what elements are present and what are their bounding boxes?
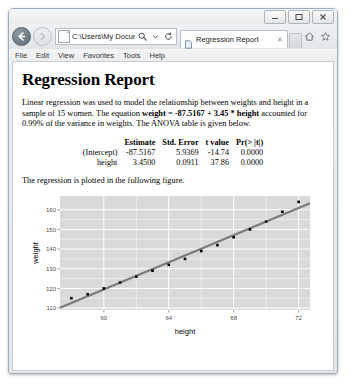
title-bar — [9, 9, 337, 24]
menu-item-favorites[interactable]: Favorites — [83, 51, 114, 60]
height-estimate: 3.4500 — [117, 158, 155, 168]
y-tick-label: 150 — [46, 227, 57, 233]
y-tick-label: 130 — [46, 266, 57, 272]
table-header-row: Estimate Std. Error t value Pr(> |t|) — [83, 138, 263, 148]
regression-scatter-chart: 11012013014015016060646872heightweight — [30, 190, 316, 338]
intercept-p-value: 0.0000 — [229, 148, 263, 158]
menu-item-file[interactable]: File — [15, 51, 27, 60]
figure-caption-paragraph: The regression is plotted in the followi… — [22, 176, 324, 187]
menu-item-tools[interactable]: Tools — [123, 51, 141, 60]
dropdown-arrow-icon[interactable] — [150, 30, 161, 43]
row-label-height: height — [83, 158, 118, 168]
x-tick-label: 72 — [295, 315, 302, 321]
data-point — [216, 244, 219, 247]
header-p-value: Pr(> |t|) — [229, 138, 263, 148]
favorites-star-icon[interactable] — [318, 29, 333, 44]
x-tick-label: 64 — [165, 315, 172, 321]
data-point — [70, 297, 73, 300]
toolbar-icons — [302, 29, 338, 44]
menu-item-edit[interactable]: Edit — [36, 51, 49, 60]
refresh-icon[interactable] — [163, 30, 174, 43]
intro-paragraph: Linear regression was used to model the … — [22, 98, 324, 130]
table-row: (Intercept) -87.5167 5.9369 -14.74 0.000… — [83, 148, 263, 158]
data-point — [103, 287, 106, 290]
data-point — [200, 250, 203, 253]
menu-item-help[interactable]: Help — [150, 51, 165, 60]
maximize-button[interactable] — [288, 10, 310, 24]
data-point — [167, 263, 170, 266]
height-p-value: 0.0000 — [229, 158, 263, 168]
minimize-button[interactable] — [264, 10, 286, 24]
close-button[interactable] — [312, 10, 334, 24]
data-point — [232, 236, 235, 239]
tab-page-icon — [184, 35, 193, 44]
address-input[interactable]: C:\Users\My Docume — [72, 32, 135, 41]
x-axis-label: height — [175, 327, 196, 336]
y-tick-label: 110 — [46, 305, 56, 311]
browser-window: C:\Users\My Docume — [8, 8, 338, 374]
address-bar[interactable]: C:\Users\My Docume — [55, 28, 177, 45]
data-point — [281, 210, 284, 213]
page-content: Regression Report Linear regression was … — [12, 61, 334, 371]
y-tick-label: 140 — [46, 246, 57, 252]
x-tick-label: 68 — [230, 315, 237, 321]
header-t-value: t value — [199, 138, 229, 148]
forward-arrow-icon — [37, 31, 48, 42]
back-button[interactable] — [12, 27, 31, 46]
page-icon — [58, 30, 70, 43]
table-row: height 3.4500 0.0911 37.86 0.0000 — [83, 158, 263, 168]
browser-tab[interactable]: Regression Report ✕ — [180, 30, 288, 48]
header-std-error: Std. Error — [155, 138, 198, 148]
tab-title: Regression Report — [196, 35, 273, 44]
data-point — [86, 293, 89, 296]
back-arrow-icon — [16, 31, 27, 42]
search-icon[interactable] — [137, 30, 148, 43]
regression-equation: weight = -87.5167 + 3.45 * height — [142, 109, 259, 118]
screen: C:\Users\My Docume — [0, 0, 349, 388]
tab-close-icon[interactable]: ✕ — [276, 36, 284, 44]
x-tick-label: 60 — [100, 315, 107, 321]
intercept-std-error: 5.9369 — [155, 148, 198, 158]
data-point — [184, 258, 187, 261]
page-title: Regression Report — [22, 70, 324, 90]
settings-gear-icon[interactable] — [334, 29, 338, 44]
regression-plot: 11012013014015016060646872heightweight — [30, 190, 316, 338]
height-std-error: 0.0911 — [155, 158, 198, 168]
home-icon[interactable] — [302, 29, 317, 44]
y-axis-label: weight — [31, 241, 40, 265]
window-controls — [264, 10, 334, 24]
y-tick-label: 120 — [46, 286, 57, 292]
data-point — [297, 201, 300, 204]
row-label-intercept: (Intercept) — [83, 148, 118, 158]
data-point — [151, 269, 154, 272]
navigation-bar: C:\Users\My Docume — [9, 24, 337, 48]
header-estimate: Estimate — [117, 138, 155, 148]
forward-button[interactable] — [33, 27, 52, 46]
data-point — [249, 228, 252, 231]
new-tab-button[interactable] — [289, 33, 302, 48]
data-point — [119, 281, 122, 284]
coefficients-table: Estimate Std. Error t value Pr(> |t|) (I… — [83, 138, 263, 168]
data-point — [265, 220, 268, 223]
intercept-estimate: -87.5167 — [117, 148, 155, 158]
height-t-value: 37.86 — [199, 158, 229, 168]
menu-item-view[interactable]: View — [58, 51, 74, 60]
data-point — [135, 275, 138, 278]
intercept-t-value: -14.74 — [199, 148, 229, 158]
y-tick-label: 160 — [46, 207, 57, 213]
report-document: Regression Report Linear regression was … — [13, 62, 333, 338]
header-blank — [83, 138, 118, 148]
menu-bar: File Edit View Favorites Tools Help — [9, 48, 337, 62]
